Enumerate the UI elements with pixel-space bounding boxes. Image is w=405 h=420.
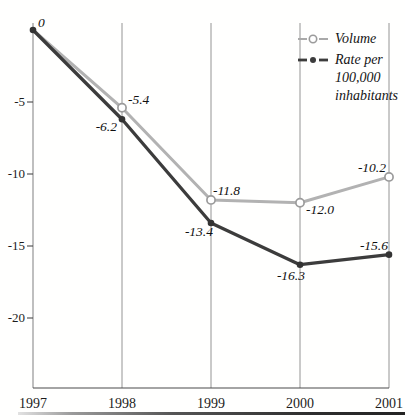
rate-legend-label: Rate per 100,000 inhabitants	[335, 51, 401, 105]
rate-point-label-1998: -6.2	[96, 119, 118, 134]
chart-figure: 19971998199920002001-5-10-15-200-5.4-11.…	[0, 0, 405, 420]
volume-point-label-2001: -10.2	[358, 160, 386, 175]
legend-item-rate: Rate per 100,000 inhabitants	[298, 51, 402, 105]
rate-point-label-2000: -16.3	[277, 268, 305, 283]
volume-point-label-1997: 0	[38, 15, 45, 30]
volume-point-label-1998: -5.4	[128, 92, 150, 107]
x-tick-label-1997: 1997	[19, 396, 47, 411]
volume-legend-marker-icon	[298, 34, 328, 44]
volume-point-2001	[385, 173, 393, 181]
volume-point-label-2000: -12.0	[306, 202, 334, 217]
volume-point-label-1999: -11.8	[213, 183, 240, 198]
rate-point-1997	[30, 27, 37, 34]
x-tick-label-1999: 1999	[197, 396, 225, 411]
y-tick-label: -5	[14, 94, 25, 109]
y-tick-label: -20	[8, 310, 25, 325]
y-tick-label: -10	[8, 166, 25, 181]
rate-point-label-2001: -15.6	[360, 238, 388, 253]
legend-item-volume: Volume	[298, 30, 402, 48]
x-tick-label-2001: 2001	[375, 396, 403, 411]
rate-point-1998	[119, 116, 126, 123]
chart-legend: Volume Rate per 100,000 inhabitants	[298, 30, 402, 108]
x-tick-label-2000: 2000	[286, 396, 314, 411]
volume-legend-label: Volume	[335, 30, 401, 48]
x-tick-label-1998: 1998	[108, 396, 136, 411]
bottom-separator-rule	[18, 412, 405, 415]
volume-point-2000	[296, 199, 304, 207]
rate-point-label-1999: -13.4	[185, 224, 213, 239]
rate-legend-marker-icon	[298, 55, 328, 65]
volume-point-1998	[118, 104, 126, 112]
y-tick-label: -15	[8, 238, 25, 253]
